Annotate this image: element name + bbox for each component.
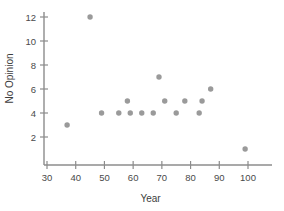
y-tick-label: 4 bbox=[31, 108, 36, 119]
x-axis-group: 30405060708090100 bbox=[42, 161, 272, 183]
x-tick-label: 80 bbox=[185, 172, 196, 183]
data-point bbox=[162, 98, 167, 103]
data-point bbox=[139, 110, 144, 115]
x-tick-label: 100 bbox=[240, 172, 256, 183]
plot-canvas: 24681012 30405060708090100 Year No Opini… bbox=[0, 0, 284, 211]
x-axis-tick-labels: 30405060708090100 bbox=[42, 172, 256, 183]
x-tick-label: 90 bbox=[214, 172, 225, 183]
scatter-plot-figure: 24681012 30405060708090100 Year No Opini… bbox=[0, 0, 284, 211]
y-axis-tick-labels: 24681012 bbox=[25, 12, 36, 143]
x-axis-title: Year bbox=[140, 193, 161, 204]
data-point bbox=[199, 98, 204, 103]
data-point bbox=[156, 74, 161, 79]
y-tick-label: 8 bbox=[31, 60, 36, 71]
data-point bbox=[208, 86, 213, 91]
y-tick-label: 10 bbox=[25, 36, 36, 47]
y-tick-label: 12 bbox=[25, 12, 36, 23]
data-points-group bbox=[64, 14, 247, 151]
data-point bbox=[99, 110, 104, 115]
data-point bbox=[87, 14, 92, 19]
data-point bbox=[196, 110, 201, 115]
data-point bbox=[174, 110, 179, 115]
x-tick-label: 30 bbox=[42, 172, 53, 183]
x-tick-label: 50 bbox=[99, 172, 110, 183]
y-axis-title: No Opinion bbox=[4, 53, 15, 103]
data-point bbox=[182, 98, 187, 103]
x-tick-label: 60 bbox=[128, 172, 139, 183]
x-tick-label: 70 bbox=[157, 172, 168, 183]
x-tick-label: 40 bbox=[70, 172, 81, 183]
y-axis-group: 24681012 bbox=[25, 12, 48, 166]
y-tick-label: 6 bbox=[31, 84, 36, 95]
data-point bbox=[125, 98, 130, 103]
data-point bbox=[64, 122, 69, 127]
y-tick-label: 2 bbox=[31, 132, 36, 143]
data-point bbox=[128, 110, 133, 115]
data-point bbox=[116, 110, 121, 115]
data-point bbox=[151, 110, 156, 115]
data-point bbox=[242, 146, 247, 151]
